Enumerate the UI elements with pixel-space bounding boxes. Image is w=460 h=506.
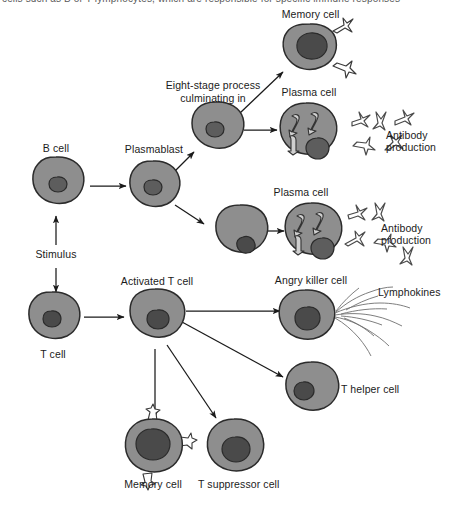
antibody-icon (345, 231, 365, 246)
cell-t-helper-cell (286, 362, 339, 410)
label-b-cell: B cell (28, 142, 84, 155)
cell-intermediate-lower (216, 205, 268, 253)
memory-cell-top-nucleus (297, 33, 327, 59)
t-suppressor-cell-nucleus (222, 437, 250, 462)
t-helper-cell-nucleus (294, 382, 314, 400)
arrow-plasmablast-to-intermediate-lower (175, 205, 204, 224)
antibody-icon (352, 112, 370, 127)
label-eight-stage-line2: culminating in (157, 92, 269, 105)
cell-t-suppressor-cell (207, 419, 263, 471)
antibody-icon (353, 137, 375, 155)
label-antibody-production-top-line1: Antibody (386, 129, 428, 142)
cell-b-cell (33, 157, 84, 204)
activated-t-cell-nucleus (147, 310, 169, 329)
memory-cell-bottom-nucleus (136, 429, 170, 460)
antibody-icon (372, 203, 385, 221)
intermediate-lower-nucleus (237, 236, 255, 253)
arrow-activated-t-to-t-helper-cell (182, 322, 283, 377)
label-angry-killer-cell: Angry killer cell (265, 274, 357, 287)
label-t-cell: T cell (26, 348, 80, 361)
antibody-icon (400, 247, 413, 265)
antibody-icon (395, 110, 414, 125)
label-memory-cell-bottom: Memory cell (117, 478, 189, 491)
arrow-activated-t-to-t-suppressor (167, 345, 216, 418)
label-t-suppressor-cell: T suppressor cell (198, 478, 279, 491)
intermediate-upper-nucleus (206, 122, 224, 137)
cell-t-cell (29, 292, 80, 339)
antibody-icon (348, 205, 367, 220)
t-cell-nucleus (43, 311, 61, 327)
label-lymphokines: Lymphokines (378, 286, 441, 299)
label-eight-stage-line1: Eight-stage process (157, 79, 269, 92)
label-stimulus: Stimulus (25, 248, 87, 261)
immunology-diagram: cells such as B or T lymphocytes, which … (0, 0, 460, 506)
label-antibody-production-bottom-line2: production (381, 234, 431, 247)
label-plasma-cell-top: Plasma cell (274, 86, 344, 99)
label-memory-cell-top: Memory cell (273, 8, 348, 21)
cell-memory-cell-top (283, 18, 356, 78)
plasma-cell-bottom-nucleus (311, 238, 334, 259)
angry-killer-cell-nucleus (295, 307, 320, 330)
label-plasmablast: Plasmablast (116, 143, 192, 156)
plasma-cell-top-nucleus (306, 138, 329, 159)
label-activated-t-cell: Activated T cell (112, 275, 202, 288)
cell-plasmablast (130, 161, 180, 207)
b-cell-nucleus (49, 177, 67, 192)
memory-cell-top-receptor-lower (333, 61, 356, 78)
label-t-helper-cell: T helper cell (341, 383, 399, 396)
plasmablast-nucleus (144, 180, 162, 195)
label-antibody-production-top-line2: production (386, 141, 436, 154)
cell-intermediate-upper (192, 102, 244, 148)
cell-activated-t-cell (130, 289, 185, 337)
label-plasma-cell-bottom: Plasma cell (266, 186, 336, 199)
label-antibody-production-bottom-line1: Antibody (381, 222, 423, 235)
antibody-icon (373, 112, 386, 130)
cell-plasma-cell-top (280, 103, 337, 159)
cell-plasma-cell-bottom (285, 203, 342, 259)
